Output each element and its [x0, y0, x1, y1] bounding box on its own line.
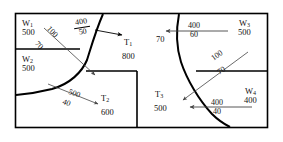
flow-fraction-w1-t1: 400 50 [73, 17, 92, 37]
flow-arrow-label-70: 70 [156, 35, 165, 44]
flow-fraction-w3-t1: 400 60 [186, 22, 202, 39]
diagram-canvas: W1 500 W2 500 T1 800 T2 600 400 50 100 7… [0, 0, 283, 142]
tank-value-t2: 600 [101, 108, 114, 117]
well-value-w4: 400 [244, 96, 257, 105]
well-value-w1: 500 [22, 28, 35, 37]
tank-label-t3: T3 [155, 90, 163, 99]
tank-label-t2: T2 [101, 94, 109, 103]
flow-fraction-w4-t3: 400 40 [209, 99, 225, 116]
tank-value-t3: 500 [154, 104, 167, 113]
tank-value-t1: 800 [122, 52, 135, 61]
tank-label-t1: T1 [124, 38, 132, 47]
flow-arrow-w1-t1 [95, 30, 122, 35]
well-value-w3: 500 [238, 28, 251, 37]
well-value-w2: 500 [22, 64, 35, 73]
